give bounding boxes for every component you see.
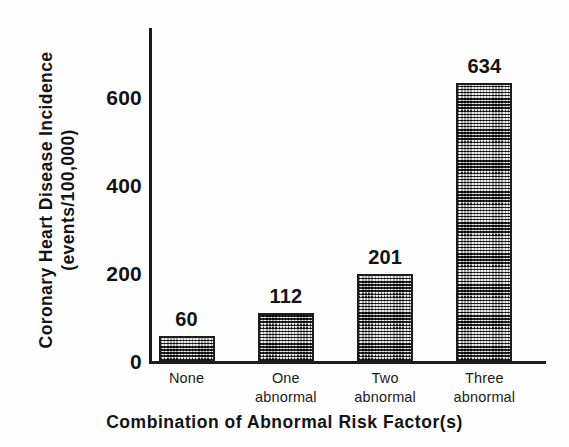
bar (357, 274, 413, 362)
y-axis-title-line-2: (events/100,000) (59, 129, 79, 271)
bar-hatch-pattern (458, 85, 510, 360)
category-label-line-1: Three (465, 370, 504, 386)
bar (456, 83, 512, 362)
chart-figure: Coronary Heart Disease Incidence (events… (0, 0, 569, 447)
bar (159, 336, 215, 362)
bar-hatch-pattern (260, 315, 312, 360)
category-label-line-1: None (169, 370, 204, 386)
bar-value-label: 112 (238, 285, 334, 308)
y-axis-tick-label: 200 (90, 262, 142, 286)
category-label-line-2: abnormal (335, 388, 435, 407)
bar (258, 313, 314, 362)
x-axis-category-label: None (137, 369, 237, 388)
bar-value-label: 201 (337, 246, 433, 269)
category-label-line-2: abnormal (236, 388, 336, 407)
y-axis-title: Coronary Heart Disease Incidence (events… (10, 0, 106, 400)
x-axis-title: Combination of Abnormal Risk Factor(s) (0, 412, 569, 433)
bar-hatch-pattern (359, 276, 411, 360)
x-axis-category-label: Threeabnormal (434, 369, 534, 406)
bar-value-label: 60 (139, 308, 235, 331)
category-label-line-1: Two (372, 370, 399, 386)
x-axis-category-label: Twoabnormal (335, 369, 435, 406)
bar-hatch-pattern (161, 338, 213, 360)
y-axis-tick-label: 600 (90, 86, 142, 110)
y-axis-title-line-1: Coronary Heart Disease Incidence (37, 52, 57, 349)
x-axis-category-label: Oneabnormal (236, 369, 336, 406)
category-label-line-2: abnormal (434, 388, 534, 407)
y-axis-tick-label: 0 (90, 350, 142, 374)
bar-value-label: 634 (436, 55, 532, 78)
y-axis-tick-label: 400 (90, 174, 142, 198)
plot-area: 60112201634 (149, 28, 546, 362)
category-label-line-1: One (272, 370, 300, 386)
